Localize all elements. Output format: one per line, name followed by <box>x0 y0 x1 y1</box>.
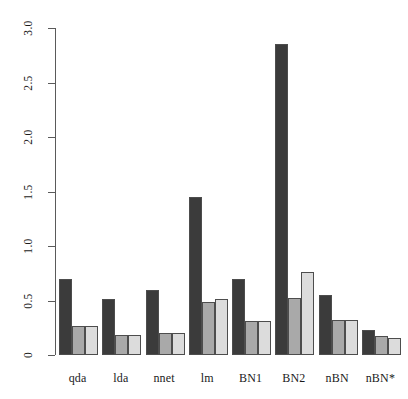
bar-group <box>102 28 141 355</box>
bar <box>301 272 314 355</box>
bar <box>146 290 159 355</box>
bar <box>319 295 332 355</box>
y-axis-tick <box>48 137 55 138</box>
bar <box>258 321 271 355</box>
y-axis-tick-label-text: 1.5 <box>22 184 34 199</box>
y-axis-tick-label-text: 1.0 <box>22 238 34 253</box>
x-axis-label: qda <box>56 371 99 386</box>
y-axis-tick-label: 1.0 <box>10 239 46 253</box>
bar <box>345 320 358 355</box>
x-axis-label: nnet <box>143 371 186 386</box>
y-axis-tick <box>48 246 55 247</box>
y-axis-tick-label: 2.0 <box>10 130 46 144</box>
bar <box>159 333 172 355</box>
y-axis-tick <box>48 301 55 302</box>
bar <box>189 197 202 355</box>
x-axis-label: lda <box>99 371 142 386</box>
bar <box>275 44 288 355</box>
bar <box>232 279 245 355</box>
bar <box>128 335 141 355</box>
x-axis-labels: qdaldannetlmBN1BN2nBNnBN* <box>56 355 402 399</box>
bar <box>102 299 115 355</box>
bar-group <box>189 28 228 355</box>
bar-group <box>59 28 98 355</box>
bar-group <box>275 28 314 355</box>
bar-group <box>232 28 271 355</box>
bar-group <box>146 28 185 355</box>
y-axis-tick-label: 2.5 <box>10 76 46 90</box>
y-axis-tick <box>48 192 55 193</box>
x-axis-label: BN2 <box>272 371 315 386</box>
y-axis-tick-label-text: 2.5 <box>22 75 34 90</box>
y-axis-tick-label-text: 2.0 <box>22 129 34 144</box>
y-axis-tick <box>48 355 55 356</box>
bar <box>362 330 375 355</box>
bar <box>202 302 215 355</box>
bar <box>288 298 301 355</box>
y-axis-tick-label: 0 <box>10 348 46 362</box>
x-axis-label: nBN <box>316 371 359 386</box>
y-axis-tick-label-text: 3.0 <box>22 20 34 35</box>
y-axis-tick-label: 3.0 <box>10 21 46 35</box>
x-axis-label: BN1 <box>229 371 272 386</box>
y-axis-tick <box>48 83 55 84</box>
bar <box>375 336 388 355</box>
y-axis-tick <box>48 28 55 29</box>
y-axis-tick-label: 1.5 <box>10 185 46 199</box>
y-axis-tick-label-text: 0 <box>22 352 34 358</box>
bar-group <box>362 28 401 355</box>
x-axis-label: lm <box>186 371 229 386</box>
y-axis: 00.51.01.52.02.53.0 <box>0 0 62 399</box>
bar <box>72 326 85 355</box>
y-axis-tick-label: 0.5 <box>10 294 46 308</box>
bar <box>215 299 228 355</box>
plot-area <box>56 28 402 355</box>
bar <box>59 279 72 355</box>
bar <box>172 333 185 355</box>
bar <box>388 338 401 355</box>
bar <box>115 335 128 355</box>
bar-group <box>319 28 358 355</box>
bar <box>245 321 258 355</box>
bar <box>85 326 98 355</box>
x-axis-label: nBN* <box>359 371 402 386</box>
bar <box>332 320 345 355</box>
y-axis-tick-label-text: 0.5 <box>22 293 34 308</box>
bar-chart: 00.51.01.52.02.53.0 qdaldannetlmBN1BN2nB… <box>0 0 408 399</box>
